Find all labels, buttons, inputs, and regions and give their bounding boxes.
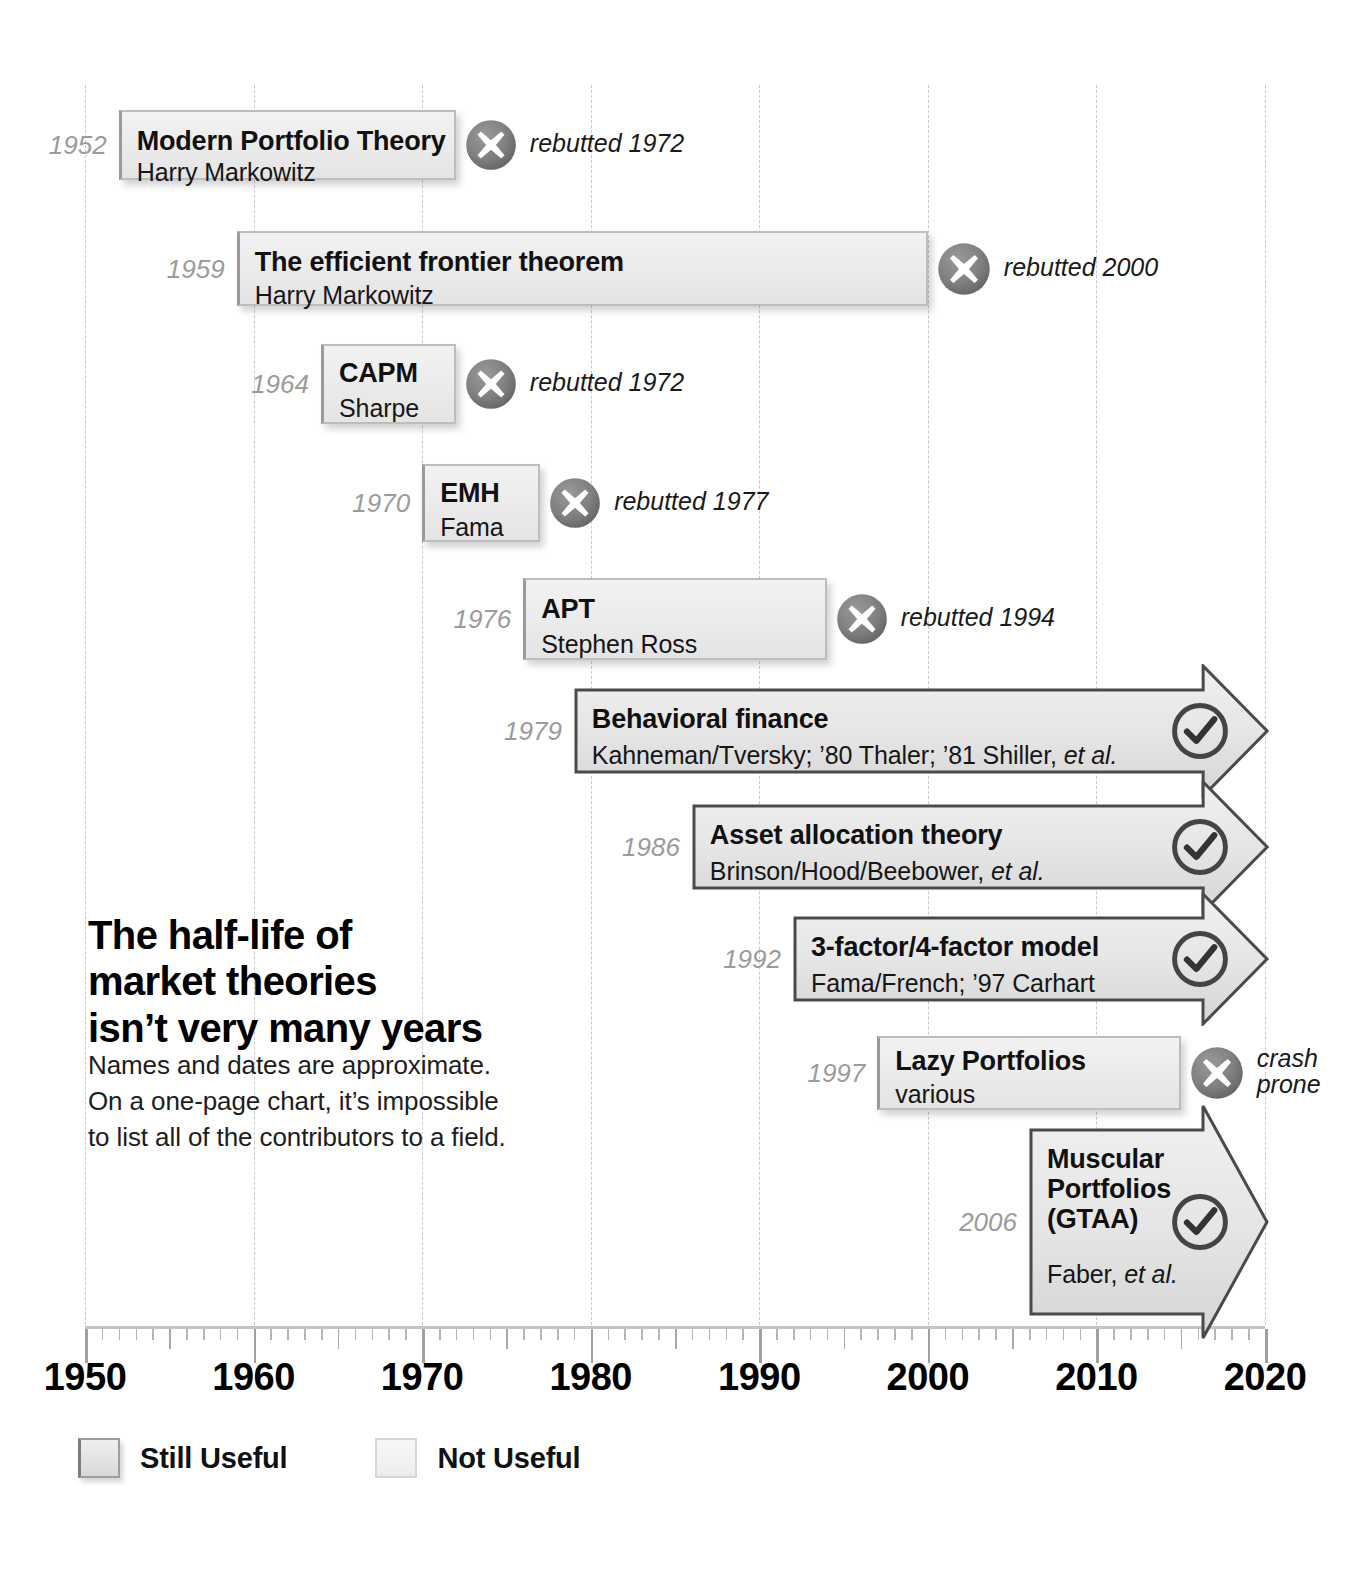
axis-tick-1977: [540, 1329, 542, 1340]
axis-tick-1953: [136, 1329, 138, 1340]
status-label: rebutted 1972: [530, 369, 684, 395]
status-label: rebutted 1972: [530, 130, 684, 156]
axis-tick-1986: [692, 1329, 694, 1340]
legend-label-still-useful: Still Useful: [140, 1442, 287, 1475]
axis-tick-1985: [675, 1329, 677, 1349]
row-year-label: 1964: [251, 369, 321, 400]
x-circle-icon[interactable]: [464, 118, 518, 172]
axis-tick-1972: [456, 1329, 458, 1340]
axis-tick-1959: [237, 1329, 239, 1340]
row-year-label: 1959: [167, 253, 237, 284]
x-circle-icon[interactable]: [548, 476, 602, 530]
bar-fill: [119, 110, 456, 180]
axis-tick-1984: [658, 1329, 660, 1340]
axis-tick-2003: [978, 1329, 980, 1340]
axis-tick-1971: [439, 1329, 441, 1340]
timeline-bar[interactable]: [321, 344, 456, 424]
axis-tick-1966: [355, 1329, 357, 1340]
legend-swatch-still-useful: [78, 1438, 120, 1478]
axis-label-1980: 1980: [549, 1356, 632, 1399]
legend-swatch-not-useful: [375, 1438, 417, 1478]
check-circle-icon[interactable]: [1169, 816, 1231, 878]
axis-tick-1993: [810, 1329, 812, 1340]
axis-tick-1967: [372, 1329, 374, 1340]
axis-tick-1968: [388, 1329, 390, 1340]
check-circle-icon[interactable]: [1169, 1191, 1231, 1253]
row-year-label: 1986: [622, 832, 692, 863]
axis-label-1970: 1970: [381, 1356, 464, 1399]
bar-fill: [237, 231, 928, 306]
timeline-bar[interactable]: [523, 578, 826, 660]
axis-tick-2004: [995, 1329, 997, 1340]
page-title: The half-life ofmarket theoriesisn’t ver…: [88, 912, 608, 1051]
timeline-bar-arrow[interactable]: [1029, 1104, 1271, 1340]
axis-tick-1974: [490, 1329, 492, 1340]
axis-label-1990: 1990: [718, 1356, 801, 1399]
axis-tick-1983: [641, 1329, 643, 1340]
axis-tick-1998: [894, 1329, 896, 1340]
check-circle-icon[interactable]: [1169, 928, 1231, 990]
row-year-label: 1976: [453, 604, 523, 635]
timeline-chart: 19501960197019801990200020102020 1952Mod…: [0, 0, 1349, 1584]
axis-tick-1961: [270, 1329, 272, 1340]
x-circle-icon[interactable]: [1189, 1045, 1245, 1101]
axis-tick-1951: [102, 1329, 104, 1340]
axis-tick-2005: [1012, 1329, 1014, 1349]
axis-tick-1955: [169, 1329, 171, 1349]
axis-label-1960: 1960: [212, 1356, 295, 1399]
row-year-label: 1979: [504, 716, 574, 747]
axis-tick-1982: [624, 1329, 626, 1340]
axis-tick-1956: [186, 1329, 188, 1340]
row-year-label: 1952: [49, 130, 119, 161]
status-label: rebutted 2000: [1004, 254, 1158, 280]
axis-tick-1987: [709, 1329, 711, 1340]
axis-tick-1999: [911, 1329, 913, 1340]
axis-label-1950: 1950: [44, 1356, 127, 1399]
axis-tick-1979: [574, 1329, 576, 1340]
axis-tick-2002: [962, 1329, 964, 1340]
axis-tick-1975: [506, 1329, 508, 1349]
axis-tick-1976: [523, 1329, 525, 1340]
status-label: crashprone: [1257, 1045, 1321, 1098]
axis-tick-1963: [304, 1329, 306, 1340]
axis-tick-2001: [945, 1329, 947, 1340]
axis-tick-1994: [827, 1329, 829, 1340]
row-year-label: 1970: [352, 488, 422, 519]
legend-label-not-useful: Not Useful: [437, 1442, 580, 1475]
axis-tick-1978: [557, 1329, 559, 1340]
axis-tick-1969: [405, 1329, 407, 1340]
axis-tick-1989: [742, 1329, 744, 1340]
check-circle-icon[interactable]: [1169, 700, 1231, 762]
axis-tick-1991: [776, 1329, 778, 1340]
axis-tick-1954: [152, 1329, 154, 1340]
row-year-label: 1997: [807, 1058, 877, 1089]
bar-fill: [523, 578, 826, 660]
legend-item-still-useful[interactable]: Still Useful: [78, 1438, 287, 1478]
timeline-bar[interactable]: [237, 231, 928, 306]
axis-tick-1981: [608, 1329, 610, 1340]
axis-tick-1962: [287, 1329, 289, 1340]
bar-fill: [321, 344, 456, 424]
axis-tick-1992: [793, 1329, 795, 1340]
axis-tick-1957: [203, 1329, 205, 1340]
legend-item-not-useful[interactable]: Not Useful: [375, 1438, 580, 1478]
timeline-bar-arrow[interactable]: [574, 664, 1271, 798]
axis-tick-1952: [119, 1329, 121, 1340]
timeline-bar[interactable]: [877, 1036, 1180, 1110]
x-circle-icon[interactable]: [835, 592, 889, 646]
axis-tick-1996: [860, 1329, 862, 1340]
gridline-1950: [85, 85, 86, 1325]
axis-tick-1965: [338, 1329, 340, 1349]
row-year-label: 1992: [723, 944, 793, 975]
legend: Still Useful Not Useful: [78, 1438, 668, 1478]
axis-tick-1997: [877, 1329, 879, 1340]
timeline-bar[interactable]: [119, 110, 456, 180]
status-label: rebutted 1994: [901, 604, 1055, 630]
timeline-bar[interactable]: [422, 464, 540, 542]
axis-tick-1958: [220, 1329, 222, 1340]
chart-note: Names and dates are approximate.On a one…: [88, 1048, 648, 1156]
axis-label-2020: 2020: [1224, 1356, 1307, 1399]
x-circle-icon[interactable]: [464, 357, 518, 411]
axis-tick-1964: [321, 1329, 323, 1340]
x-circle-icon[interactable]: [936, 241, 992, 297]
